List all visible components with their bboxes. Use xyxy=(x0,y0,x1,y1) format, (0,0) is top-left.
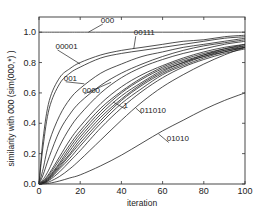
curve-011010 xyxy=(39,47,245,184)
similarity-line-chart: 00000111000010010000101101001010 0204060… xyxy=(0,0,264,214)
y-axis-label: similarity with 000 (sim(000,*) ) xyxy=(6,50,16,166)
y-tick-label: 0.2 xyxy=(23,149,36,159)
x-tick-label: 80 xyxy=(199,186,209,196)
curve-label-0000: 0000 xyxy=(82,86,100,95)
curve-label-1: 1 xyxy=(123,101,128,110)
curve-unlabeled-9 xyxy=(39,46,245,184)
curve-label-001: 001 xyxy=(64,74,78,83)
curve-label-011010: 011010 xyxy=(140,106,167,115)
y-tick-label: 0.0 xyxy=(23,179,36,189)
curve-unlabeled-8 xyxy=(39,46,245,184)
curve-unlabeled-12 xyxy=(39,47,245,184)
x-tick-label: 20 xyxy=(75,186,85,196)
y-tick-label: 0.6 xyxy=(23,88,36,98)
annotation-group: 00000111000010010000101101001010 xyxy=(55,16,189,143)
y-tick-label: 1.0 xyxy=(23,27,36,37)
curve-label-01010: 01010 xyxy=(167,134,190,143)
x-tick-label: 100 xyxy=(237,186,252,196)
x-tick-label: 40 xyxy=(116,186,126,196)
y-tick-label: 0.8 xyxy=(23,58,36,68)
curve-label-00001: 00001 xyxy=(55,42,78,51)
curve-unlabeled-13 xyxy=(39,49,245,184)
curve-label-00111: 00111 xyxy=(134,28,156,37)
x-tick-label: 60 xyxy=(158,186,168,196)
curve-unlabeled-11 xyxy=(39,47,245,184)
annotation-leader xyxy=(134,36,136,49)
y-tick-label: 0.4 xyxy=(23,118,36,128)
curve-unlabeled-10 xyxy=(39,47,245,184)
chart-canvas: 00000111000010010000101101001010 0204060… xyxy=(0,0,264,214)
annotation-leader xyxy=(88,24,102,32)
x-tick-label: 0 xyxy=(36,186,41,196)
annotation-leader xyxy=(57,50,80,64)
x-axis-label: iteration xyxy=(127,198,158,208)
